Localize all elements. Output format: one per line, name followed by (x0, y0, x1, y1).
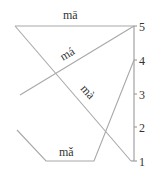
tick-label-4: 4 (139, 54, 145, 68)
tick-label-1: 1 (139, 155, 145, 169)
tone-2-label: má (57, 44, 77, 64)
tick-label-2: 2 (139, 121, 145, 135)
tick-label-5: 5 (139, 20, 145, 34)
tone-3-contour (17, 60, 134, 161)
tone-chart: 5 4 3 2 1 mā má mà mǎ (0, 0, 161, 179)
tick-label-3: 3 (139, 88, 145, 102)
tone-1-label: mā (63, 8, 78, 22)
tone-2-contour (20, 26, 134, 95)
tone-4-contour (15, 26, 131, 161)
tone-3-label: mǎ (59, 145, 74, 159)
tone-4-label: mà (78, 82, 99, 103)
